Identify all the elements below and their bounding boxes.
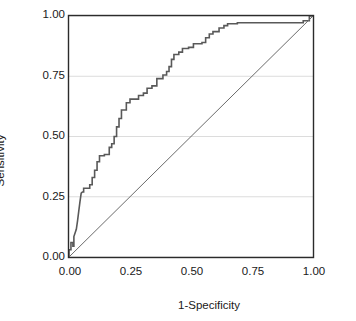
roc-chart: Sensitivity 0.00 0.25 0.50 0.75 1.00 0.0…: [0, 0, 356, 321]
plot-area: [0, 0, 356, 321]
